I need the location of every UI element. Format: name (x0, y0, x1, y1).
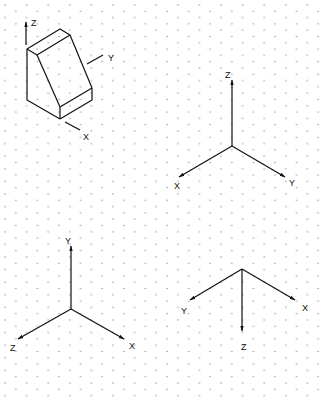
isometric-drawing-canvas: Z Y X Z X Y Y Z X Y X Z (0, 0, 322, 400)
triad2-x-label: X (129, 341, 135, 351)
triad3-z-label: Z (241, 342, 247, 352)
triad2-z-label: Z (10, 343, 16, 353)
triad2-y-label: Y (65, 236, 71, 246)
triad3-x-label: X (302, 303, 308, 313)
triad1-x-label: X (174, 181, 180, 191)
block-x-label: X (83, 132, 89, 142)
triad1-y-label: Y (289, 178, 295, 188)
block-z-label: Z (31, 18, 37, 28)
drawing-svg: Z Y X Z X Y Y Z X Y X Z (0, 0, 322, 400)
dot-grid (0, 0, 322, 400)
triad1-z-label: Z (225, 70, 231, 80)
triad3-y-label: Y (181, 306, 187, 316)
block-y-label: Y (108, 53, 114, 63)
